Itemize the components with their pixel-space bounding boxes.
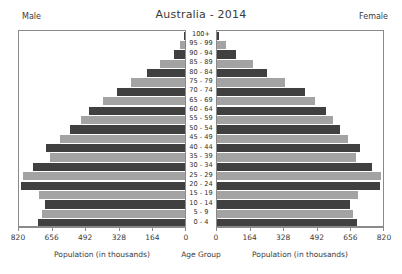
female-axis-caption: Population (in thousands) bbox=[252, 250, 348, 259]
age-group-label: 15 - 19 bbox=[186, 189, 216, 198]
bar-row bbox=[217, 190, 383, 199]
axis-tick bbox=[52, 227, 53, 231]
age-group-column: 100+95 - 9990 - 9485 - 8980 - 8475 - 797… bbox=[186, 30, 216, 227]
female-bar bbox=[217, 41, 226, 49]
female-bar-rows bbox=[217, 31, 383, 226]
male-bar bbox=[42, 210, 185, 218]
male-plot-panel bbox=[18, 30, 186, 227]
axis-tick bbox=[250, 227, 251, 231]
bar-row bbox=[217, 153, 383, 162]
female-plot-panel bbox=[216, 30, 384, 227]
axis-tick-label: 492 bbox=[310, 233, 324, 242]
male-bar bbox=[160, 60, 185, 68]
age-group-label: 10 - 14 bbox=[186, 199, 216, 208]
male-axis-line bbox=[18, 227, 186, 228]
bar-row bbox=[19, 219, 185, 228]
female-bar bbox=[217, 116, 333, 124]
female-bar bbox=[217, 32, 219, 40]
male-bar bbox=[39, 191, 185, 199]
axis-tick bbox=[350, 227, 351, 231]
axis-tick-label: 656 bbox=[343, 233, 357, 242]
age-group-label: 45 - 49 bbox=[186, 133, 216, 142]
bar-row bbox=[217, 50, 383, 59]
axis-tick bbox=[85, 227, 86, 231]
bar-row bbox=[19, 162, 185, 171]
bar-row bbox=[217, 219, 383, 228]
bar-row bbox=[217, 69, 383, 78]
bar-row bbox=[217, 181, 383, 190]
male-bar bbox=[89, 107, 185, 115]
male-bar bbox=[33, 163, 185, 171]
female-bar bbox=[217, 135, 348, 143]
axis-tick-label: 820 bbox=[377, 233, 391, 242]
male-bar bbox=[70, 125, 185, 133]
bar-row bbox=[19, 125, 185, 134]
axis-tick bbox=[119, 227, 120, 231]
bar-row bbox=[19, 87, 185, 96]
female-tick-labels: 0164328492656820 bbox=[216, 233, 384, 245]
bar-row bbox=[217, 162, 383, 171]
age-group-label: 5 - 9 bbox=[186, 208, 216, 217]
age-group-label: 40 - 44 bbox=[186, 143, 216, 152]
male-bar bbox=[180, 41, 185, 49]
bar-row bbox=[19, 31, 185, 40]
bar-row bbox=[19, 209, 185, 218]
center-axis-caption: Age Group bbox=[181, 250, 221, 259]
bar-row bbox=[19, 78, 185, 87]
bar-row bbox=[19, 69, 185, 78]
bar-row bbox=[19, 40, 185, 49]
female-bar bbox=[217, 163, 372, 171]
female-bar bbox=[217, 153, 356, 161]
axis-tick-label: 0 bbox=[184, 233, 189, 242]
bar-row bbox=[217, 125, 383, 134]
female-bar bbox=[217, 172, 381, 180]
bar-row bbox=[217, 87, 383, 96]
female-header-label: Female bbox=[359, 12, 388, 21]
axis-tick bbox=[216, 227, 217, 231]
age-group-label: 75 - 79 bbox=[186, 77, 216, 86]
bar-row bbox=[217, 78, 383, 87]
female-bar bbox=[217, 88, 305, 96]
male-bar bbox=[81, 116, 185, 124]
age-group-label: 70 - 74 bbox=[186, 86, 216, 95]
female-bar bbox=[217, 210, 353, 218]
female-bar bbox=[217, 78, 285, 86]
female-bar bbox=[217, 60, 253, 68]
bar-row bbox=[19, 172, 185, 181]
axis-tick bbox=[152, 227, 153, 231]
bar-row bbox=[217, 144, 383, 153]
male-bar bbox=[131, 78, 185, 86]
female-bar bbox=[217, 200, 350, 208]
bar-row bbox=[217, 209, 383, 218]
female-x-axis bbox=[216, 227, 384, 232]
bar-row bbox=[217, 106, 383, 115]
age-group-label: 0 - 4 bbox=[186, 218, 216, 227]
age-group-label: 80 - 84 bbox=[186, 68, 216, 77]
axis-tick-label: 656 bbox=[44, 233, 58, 242]
bar-row bbox=[19, 144, 185, 153]
bar-row bbox=[19, 190, 185, 199]
axis-tick bbox=[283, 227, 284, 231]
female-bar bbox=[217, 69, 267, 77]
female-bar bbox=[217, 191, 358, 199]
chart-title: Australia - 2014 bbox=[0, 8, 402, 21]
bar-row bbox=[217, 59, 383, 68]
male-bar-rows bbox=[19, 31, 185, 226]
bar-row bbox=[19, 97, 185, 106]
axis-tick-label: 328 bbox=[276, 233, 290, 242]
female-axis-line bbox=[216, 227, 384, 228]
population-pyramid-chart: Male Australia - 2014 Female 100+95 - 99… bbox=[0, 0, 402, 274]
male-bar bbox=[23, 172, 185, 180]
age-group-label: 30 - 34 bbox=[186, 161, 216, 170]
bar-row bbox=[19, 115, 185, 124]
age-group-label: 85 - 89 bbox=[186, 58, 216, 67]
axis-tick-label: 820 bbox=[11, 233, 25, 242]
male-bar bbox=[184, 32, 185, 40]
axis-tick-label: 0 bbox=[214, 233, 219, 242]
female-bar bbox=[217, 97, 315, 105]
female-bar bbox=[217, 182, 380, 190]
axis-tick-label: 164 bbox=[145, 233, 159, 242]
male-axis-caption: Population (in thousands) bbox=[54, 250, 150, 259]
bar-row bbox=[217, 115, 383, 124]
bar-row bbox=[19, 153, 185, 162]
